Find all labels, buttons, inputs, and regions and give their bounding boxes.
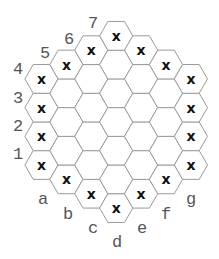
row-label-2: 2 (13, 117, 23, 136)
x-mark-e2: x (137, 186, 146, 202)
x-mark-e7: x (137, 42, 146, 58)
x-mark-c1: x (87, 186, 96, 202)
x-mark-g7: x (186, 71, 195, 87)
column-label-e: e (137, 219, 147, 238)
column-label-g: g (186, 190, 196, 209)
board-cells (25, 21, 208, 222)
column-label-f: f (161, 205, 171, 224)
x-mark-g4: x (186, 157, 195, 173)
column-label-b: b (63, 205, 73, 224)
x-mark-g6: x (186, 100, 195, 116)
x-mark-d1: x (112, 200, 121, 216)
x-mark-g5: x (186, 128, 195, 144)
x-mark-c6: x (87, 42, 96, 58)
column-label-a: a (38, 190, 48, 209)
row-label-6: 6 (64, 30, 74, 49)
x-mark-a3: x (37, 100, 46, 116)
x-mark-f3: x (161, 171, 170, 187)
x-mark-b5: x (62, 57, 71, 73)
hex-board: xxxxxxxxxxxxxxxxxx 1234567abcdefg (0, 0, 219, 259)
row-label-4: 4 (13, 60, 23, 79)
x-mark-a2: x (37, 128, 46, 144)
x-mark-b1: x (62, 171, 71, 187)
x-mark-a1: x (37, 157, 46, 173)
row-label-7: 7 (88, 14, 98, 33)
row-label-1: 1 (13, 145, 23, 164)
row-label-5: 5 (40, 44, 50, 63)
x-mark-f7: x (161, 57, 170, 73)
column-label-d: d (112, 233, 122, 252)
x-mark-a4: x (37, 71, 46, 87)
x-mark-d7: x (112, 28, 121, 44)
row-label-3: 3 (13, 89, 23, 108)
column-label-c: c (88, 219, 98, 238)
